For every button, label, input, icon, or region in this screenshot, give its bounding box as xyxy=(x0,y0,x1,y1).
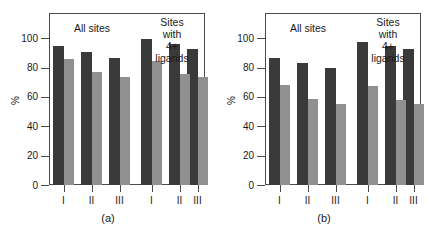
y-tick-20: 20 xyxy=(41,156,49,157)
bar-dark-0 xyxy=(269,58,280,185)
bar-light-0 xyxy=(280,85,290,185)
y-tick-0: 0 xyxy=(257,185,265,186)
x-tick-1 xyxy=(92,185,93,192)
bar-light-3 xyxy=(152,61,162,185)
bar-dark-2 xyxy=(109,58,120,185)
panel-a: % 020406080100 IIIIIIIIIIII All sitesSit… xyxy=(0,0,216,234)
bar-dark-0 xyxy=(53,46,64,185)
x-tick-label-5: III xyxy=(409,195,417,206)
y-tick-60: 60 xyxy=(41,97,49,98)
y-tick-label-60: 60 xyxy=(27,92,38,102)
x-tick-label-4: II xyxy=(393,195,399,206)
y-tick-100: 100 xyxy=(257,38,265,39)
x-tick-label-3: I xyxy=(366,195,369,206)
x-tick-0 xyxy=(64,185,65,192)
panel-b: % 020406080100 IIIIIIIIIIII All sitesSit… xyxy=(216,0,432,234)
y-tick-label-100: 100 xyxy=(237,34,254,44)
bar-light-2 xyxy=(336,104,346,185)
x-tick-0 xyxy=(280,185,281,192)
y-tick-100: 100 xyxy=(41,38,49,39)
x-tick-5 xyxy=(198,185,199,192)
y-tick-label-20: 20 xyxy=(243,151,254,161)
x-tick-label-3: I xyxy=(150,195,153,206)
bar-light-5 xyxy=(198,77,208,185)
bar-light-4 xyxy=(396,100,406,185)
y-tick-80: 80 xyxy=(41,68,49,69)
x-tick-4 xyxy=(396,185,397,192)
x-tick-label-1: II xyxy=(89,195,95,206)
bar-light-0 xyxy=(64,59,74,185)
y-tick-label-0: 0 xyxy=(248,181,254,191)
x-tick-1 xyxy=(308,185,309,192)
group-label-1: Sites with 4+ ligands xyxy=(150,16,194,64)
group-label-0: All sites xyxy=(74,22,110,34)
bar-light-4 xyxy=(180,74,190,185)
y-tick-40: 40 xyxy=(257,126,265,127)
x-tick-2 xyxy=(120,185,121,192)
x-tick-2 xyxy=(336,185,337,192)
y-tick-label-80: 80 xyxy=(243,63,254,73)
x-tick-label-2: III xyxy=(331,195,339,206)
y-tick-20: 20 xyxy=(257,156,265,157)
x-tick-5 xyxy=(414,185,415,192)
y-tick-label-40: 40 xyxy=(243,122,254,132)
group-label-0: All sites xyxy=(290,22,326,34)
y-tick-label-20: 20 xyxy=(27,151,38,161)
bar-dark-1 xyxy=(81,52,92,185)
panel-caption-a: (a) xyxy=(101,212,114,224)
x-tick-label-4: II xyxy=(177,195,183,206)
y-tick-60: 60 xyxy=(257,97,265,98)
x-tick-label-5: III xyxy=(193,195,201,206)
panel-caption-b: (b) xyxy=(317,212,330,224)
x-tick-label-0: I xyxy=(62,195,65,206)
x-tick-3 xyxy=(152,185,153,192)
y-tick-0: 0 xyxy=(41,185,49,186)
x-tick-label-0: I xyxy=(278,195,281,206)
y-tick-label-80: 80 xyxy=(27,63,38,73)
y-tick-label-60: 60 xyxy=(243,92,254,102)
bar-light-1 xyxy=(92,72,102,185)
bar-dark-1 xyxy=(297,63,308,185)
y-axis-title-b: % xyxy=(227,96,237,105)
bar-dark-2 xyxy=(325,68,336,185)
y-tick-label-0: 0 xyxy=(32,181,38,191)
x-tick-3 xyxy=(368,185,369,192)
bar-light-2 xyxy=(120,77,130,185)
bar-light-5 xyxy=(414,104,424,185)
x-tick-label-2: III xyxy=(115,195,123,206)
y-tick-label-100: 100 xyxy=(21,34,38,44)
x-tick-4 xyxy=(180,185,181,192)
figure: % 020406080100 IIIIIIIIIIII All sitesSit… xyxy=(0,0,433,234)
y-axis-title-a: % xyxy=(11,96,21,105)
group-label-1: Sites with 4+ ligands xyxy=(366,16,410,64)
bar-light-3 xyxy=(368,86,378,185)
y-tick-80: 80 xyxy=(257,68,265,69)
y-tick-label-40: 40 xyxy=(27,122,38,132)
y-tick-40: 40 xyxy=(41,126,49,127)
bar-dark-4 xyxy=(169,44,180,185)
bar-dark-4 xyxy=(385,46,396,185)
bar-light-1 xyxy=(308,99,318,185)
x-tick-label-1: II xyxy=(305,195,311,206)
